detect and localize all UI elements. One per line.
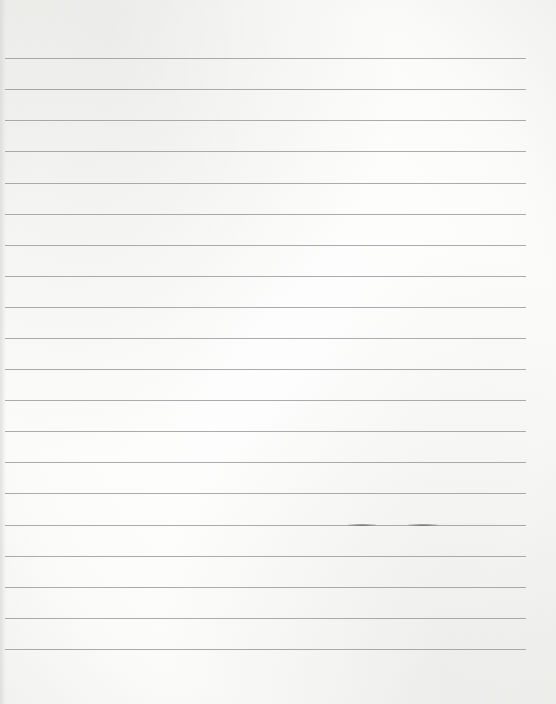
- rule-line: [5, 369, 526, 370]
- rule-line: [5, 525, 526, 526]
- rule-line: [5, 462, 526, 463]
- rule-line: [5, 338, 526, 339]
- rule-line: [5, 400, 526, 401]
- rule-line: [5, 307, 526, 308]
- rule-line: [5, 120, 526, 121]
- ink-smudge: [408, 524, 438, 526]
- ink-smudge: [348, 524, 376, 526]
- rule-line: [5, 618, 526, 619]
- rule-line: [5, 493, 526, 494]
- rule-line: [5, 245, 526, 246]
- ruled-paper-page: [0, 0, 556, 704]
- rule-line: [5, 58, 526, 59]
- rule-line: [5, 556, 526, 557]
- rule-line: [5, 649, 526, 650]
- rule-line: [5, 214, 526, 215]
- rule-line: [5, 183, 526, 184]
- rule-line: [5, 587, 526, 588]
- rule-line: [5, 431, 526, 432]
- rule-line: [5, 89, 526, 90]
- rule-line: [5, 276, 526, 277]
- rule-line: [5, 151, 526, 152]
